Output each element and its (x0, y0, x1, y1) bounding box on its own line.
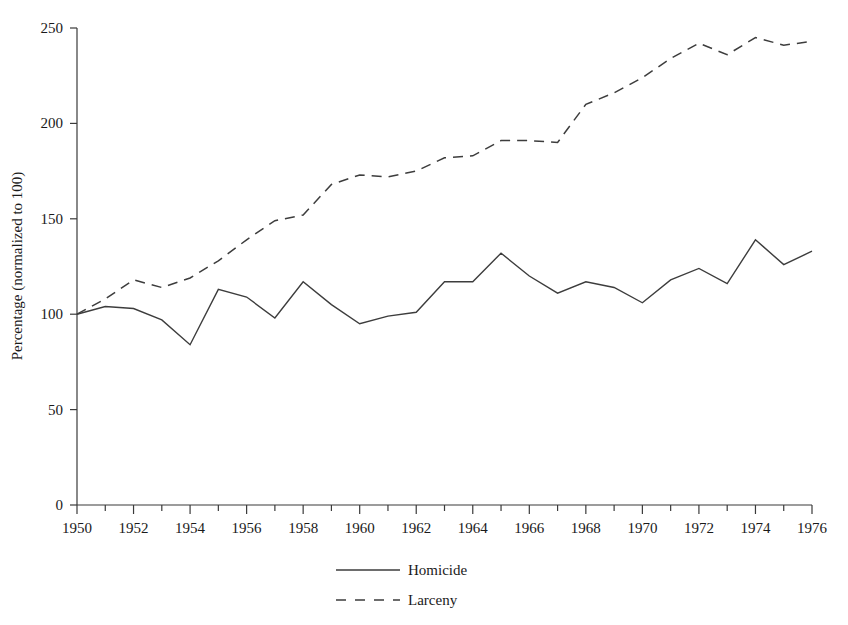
line-chart: 050100150200250 Percentage (normalized t… (0, 0, 848, 625)
y-tick-label: 100 (41, 306, 64, 322)
series-line-larceny (77, 38, 812, 315)
x-tick-label: 1950 (62, 520, 92, 536)
x-tick-label: 1956 (232, 520, 263, 536)
y-axis: 050100150200250 Percentage (normalized t… (9, 20, 77, 513)
legend-label-larceny: Larceny (408, 592, 458, 608)
x-tick-label: 1976 (797, 520, 828, 536)
y-axis-title: Percentage (normalized to 100) (9, 172, 26, 361)
x-axis: 1950195219541956195819601962196419661968… (62, 505, 828, 536)
x-tick-label: 1958 (288, 520, 318, 536)
chart-legend: HomicideLarceny (336, 562, 467, 608)
x-tick-label: 1972 (684, 520, 714, 536)
x-tick-label: 1952 (119, 520, 149, 536)
y-tick-label: 150 (41, 211, 64, 227)
y-tick-label: 200 (41, 115, 64, 131)
x-tick-label: 1974 (740, 520, 771, 536)
x-tick-label: 1970 (627, 520, 657, 536)
series-line-homicide (77, 240, 812, 345)
series-container (77, 38, 812, 345)
y-tick-label: 250 (41, 20, 64, 36)
x-tick-label: 1966 (514, 520, 545, 536)
x-tick-label: 1960 (345, 520, 375, 536)
legend-label-homicide: Homicide (408, 562, 467, 578)
y-axis-ticks: 050100150200250 (41, 20, 78, 513)
x-axis-ticks: 1950195219541956195819601962196419661968… (62, 505, 828, 536)
y-tick-label: 0 (56, 497, 64, 513)
chart-figure: 050100150200250 Percentage (normalized t… (0, 0, 848, 625)
x-tick-label: 1962 (401, 520, 431, 536)
x-tick-label: 1954 (175, 520, 206, 536)
x-tick-label: 1964 (458, 520, 489, 536)
y-tick-label: 50 (48, 402, 63, 418)
x-tick-label: 1968 (571, 520, 601, 536)
